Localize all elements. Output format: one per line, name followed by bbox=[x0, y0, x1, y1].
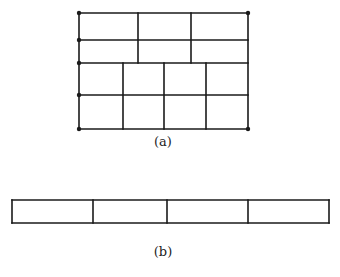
node-dot bbox=[77, 61, 81, 65]
node-dot bbox=[246, 11, 250, 15]
figure-a-label: (a) bbox=[154, 134, 172, 149]
node-dot bbox=[77, 93, 81, 97]
figure-a-grid bbox=[77, 11, 250, 131]
node-dot bbox=[77, 11, 81, 15]
figure-b-label: (b) bbox=[154, 244, 172, 259]
node-dot bbox=[77, 38, 81, 42]
node-dot bbox=[246, 127, 250, 131]
node-dot bbox=[77, 127, 81, 131]
figure-b-strip bbox=[12, 200, 329, 223]
diagram-canvas: (a) (b) bbox=[0, 0, 340, 277]
